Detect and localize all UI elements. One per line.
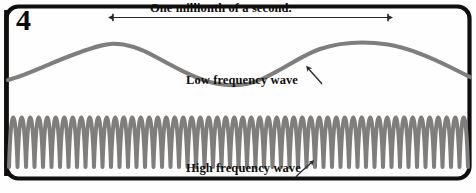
low-wave-pointer-arrow — [308, 68, 322, 84]
high-frequency-waveform — [9, 118, 468, 168]
figure-number: 4 — [16, 5, 31, 35]
low-frequency-wave-label: Low frequency wave — [186, 73, 298, 88]
duration-label: One millionth of a second. — [150, 1, 292, 16]
waveform-figure-panel: 4 One millionth of a second. Low frequen… — [0, 0, 476, 193]
high-frequency-wave-label: High frequency wave — [186, 161, 301, 176]
